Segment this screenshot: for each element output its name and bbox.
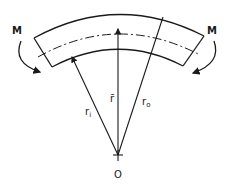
- center-mark-icon: [113, 150, 123, 161]
- outer-radius-label: ro: [142, 96, 150, 109]
- moment-label-right: M: [207, 25, 217, 36]
- inner-radius-label: ri: [85, 106, 91, 119]
- outer-radius-line: [118, 17, 163, 155]
- centroidal-axis: [38, 34, 200, 57]
- center-label: O: [114, 169, 122, 180]
- moment-label-left: M: [12, 25, 22, 36]
- centroid-radius-label: r̄: [110, 93, 115, 104]
- inner-radius-line: [72, 57, 118, 155]
- left-end-face: [34, 38, 52, 67]
- curved-beam-diagram: M M ri r̄ ro O: [0, 0, 228, 185]
- beam-segment: [34, 14, 204, 67]
- moment-arrow-left-icon: [19, 41, 40, 72]
- right-end-face: [183, 36, 204, 66]
